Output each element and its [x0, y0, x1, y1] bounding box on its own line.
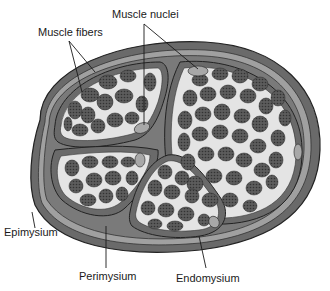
label-perimysium: Perimysium — [79, 271, 136, 282]
label-muscle-nuclei: Muscle nuclei — [112, 9, 179, 20]
muscle-cross-section-diagram — [0, 0, 330, 291]
label-endomysium: Endomysium — [176, 273, 240, 284]
label-muscle-fibers: Muscle fibers — [38, 27, 103, 38]
label-epimysium: Epimysium — [4, 227, 58, 238]
